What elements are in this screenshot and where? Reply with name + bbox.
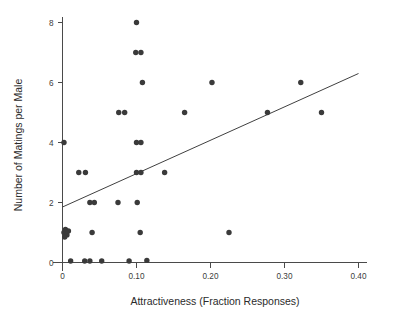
data-point — [87, 258, 92, 263]
data-point — [135, 200, 140, 205]
data-point — [116, 110, 121, 115]
data-point — [115, 200, 120, 205]
data-point — [319, 110, 324, 115]
y-tick-label: 4 — [49, 139, 54, 148]
data-point — [182, 110, 187, 115]
scatter-plot-figure: 02468 00.100.200.300.40 Number of Mating… — [0, 0, 393, 314]
data-point — [76, 170, 81, 175]
x-tick-label: 0.40 — [351, 272, 367, 281]
data-point — [138, 230, 143, 235]
x-tick-label: 0.20 — [203, 272, 219, 281]
y-tick-label: 2 — [49, 199, 54, 208]
data-point — [92, 200, 97, 205]
x-tick-label: 0.10 — [129, 272, 145, 281]
x-axis-title: Attractiveness (Fraction Responses) — [130, 295, 299, 307]
data-point — [83, 170, 88, 175]
x-axis — [53, 263, 367, 268]
data-point — [144, 258, 149, 263]
plot-canvas: 02468 00.100.200.300.40 Number of Mating… — [0, 0, 393, 314]
x-tick-label: 0 — [60, 272, 65, 281]
data-point — [122, 110, 127, 115]
y-tick-labels: 02468 — [49, 19, 54, 268]
data-points — [61, 20, 324, 264]
data-point — [66, 228, 71, 233]
data-point — [209, 80, 214, 85]
data-point — [89, 230, 94, 235]
x-tick-labels: 00.100.200.300.40 — [60, 272, 367, 281]
data-point — [138, 140, 143, 145]
fit-line — [63, 74, 359, 208]
data-point — [226, 230, 231, 235]
data-point — [62, 234, 67, 239]
data-point — [134, 20, 139, 25]
data-point — [126, 258, 131, 263]
data-point — [140, 80, 145, 85]
data-point — [68, 258, 73, 263]
data-point — [133, 50, 138, 55]
data-point — [138, 170, 143, 175]
y-axis-title: Number of Matings per Male — [12, 79, 24, 212]
data-point — [298, 80, 303, 85]
regression-line — [63, 74, 359, 208]
data-point — [61, 140, 66, 145]
data-point — [82, 258, 87, 263]
y-tick-label: 8 — [49, 19, 54, 28]
x-tick-label: 0.30 — [277, 272, 293, 281]
data-point — [138, 50, 143, 55]
data-point — [99, 258, 104, 263]
y-tick-label: 0 — [49, 259, 54, 268]
data-point — [162, 170, 167, 175]
y-tick-label: 6 — [49, 79, 54, 88]
data-point — [265, 110, 270, 115]
